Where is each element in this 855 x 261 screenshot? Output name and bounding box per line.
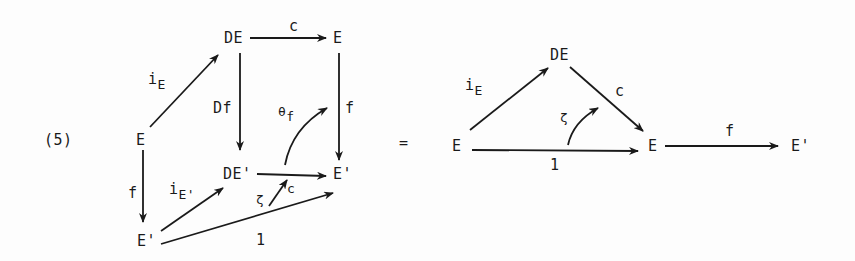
equation-number: (5) — [44, 133, 73, 148]
label-iE-main: i — [148, 70, 158, 88]
right-label-zeta: ζ — [560, 110, 568, 125]
right-object-E-mid: E — [648, 139, 658, 154]
object-DE: DE — [224, 31, 243, 46]
right-object-DE: DE — [550, 48, 569, 63]
right-label-iE-main: i — [465, 76, 475, 94]
object-E-top: E — [333, 31, 343, 46]
label-theta-subscript: f — [286, 109, 294, 124]
label-c-top: c — [289, 19, 299, 34]
label-theta-f: θf — [278, 104, 295, 119]
object-DE-prime: DE' — [223, 167, 252, 182]
right-label-f: f — [725, 124, 735, 139]
right-label-iE-subscript: E — [475, 83, 483, 98]
arrow-right-zeta — [568, 108, 598, 145]
right-label-iE: iE — [465, 78, 483, 93]
label-iE: iE — [148, 72, 166, 87]
label-iE-prime-subscript: E' — [179, 187, 196, 202]
object-E-prime-right: E' — [333, 167, 352, 182]
label-c-bottom: c — [287, 181, 295, 196]
equals-sign: = — [399, 136, 409, 151]
label-zeta: ζ — [256, 192, 264, 207]
label-one: 1 — [256, 233, 266, 248]
arrow-zeta — [269, 180, 287, 206]
label-iE-prime-main: i — [169, 180, 179, 198]
right-label-one: 1 — [550, 158, 560, 173]
arrow-c-bottom — [257, 174, 326, 176]
label-f-left: f — [128, 186, 138, 201]
right-label-c: c — [615, 84, 625, 99]
object-E-source: E — [136, 133, 146, 148]
right-object-E-prime: E' — [791, 139, 810, 154]
object-E-prime-bottom: E' — [137, 234, 156, 249]
right-object-E-source: E — [452, 139, 462, 154]
label-f-right: f — [345, 101, 355, 116]
commutative-diagram-figure: (5) E DE E DE' E' E' iE c Df f θf f iE' … — [0, 0, 855, 261]
label-iE-prime: iE' — [169, 182, 195, 197]
label-Df: Df — [213, 101, 232, 116]
arrow-right-one — [472, 150, 638, 151]
label-iE-subscript: E — [158, 77, 166, 92]
